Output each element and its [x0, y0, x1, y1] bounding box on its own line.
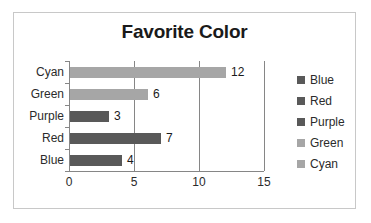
x-axis-line	[69, 171, 264, 172]
axis-tick	[65, 171, 69, 172]
legend-swatch-icon	[297, 160, 305, 168]
bar-row: Cyan12	[70, 61, 244, 83]
legend-label: Red	[310, 94, 332, 108]
chart-container[interactable]: Favorite Color Cyan12Green6Purple3Red7Bl…	[13, 12, 356, 209]
category-label: Red	[12, 127, 70, 149]
legend-label: Purple	[310, 115, 345, 129]
category-label: Cyan	[12, 61, 70, 83]
bar[interactable]	[70, 67, 226, 78]
bar[interactable]	[70, 155, 122, 166]
legend-item[interactable]: Cyan	[297, 153, 367, 174]
bar-value-label: 12	[231, 65, 244, 79]
legend-item[interactable]: Green	[297, 132, 367, 153]
bar-row: Red7	[70, 127, 173, 149]
legend-swatch-icon	[297, 118, 305, 126]
x-tick-label: 10	[192, 175, 205, 189]
bar-value-label: 3	[114, 109, 121, 123]
bar-value-label: 6	[153, 87, 160, 101]
bar-row: Blue4	[70, 149, 134, 171]
legend-swatch-icon	[297, 139, 305, 147]
bar[interactable]	[70, 133, 161, 144]
legend-item[interactable]: Blue	[297, 69, 367, 90]
legend-swatch-icon	[297, 97, 305, 105]
category-label: Blue	[12, 149, 70, 171]
gridline	[264, 61, 265, 171]
bar[interactable]	[70, 111, 109, 122]
bar-value-label: 4	[127, 153, 134, 167]
legend-label: Cyan	[310, 157, 338, 171]
bar-row: Green6	[70, 83, 160, 105]
bar[interactable]	[70, 89, 148, 100]
legend-item[interactable]: Purple	[297, 111, 367, 132]
legend-label: Blue	[310, 73, 334, 87]
legend-item[interactable]: Red	[297, 90, 367, 111]
plot-area: Cyan12Green6Purple3Red7Blue4 051015	[69, 61, 264, 171]
bar-row: Purple3	[70, 105, 121, 127]
bar-value-label: 7	[166, 131, 173, 145]
legend-swatch-icon	[297, 76, 305, 84]
legend-label: Green	[310, 136, 343, 150]
x-tick-label: 0	[66, 175, 73, 189]
category-label: Green	[12, 83, 70, 105]
x-tick-label: 5	[131, 175, 138, 189]
chart-title: Favorite Color	[14, 21, 355, 43]
chart-legend: BlueRedPurpleGreenCyan	[297, 69, 367, 174]
category-label: Purple	[12, 105, 70, 127]
x-tick-label: 15	[257, 175, 270, 189]
